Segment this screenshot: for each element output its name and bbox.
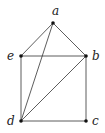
edge-a-d xyxy=(21,23,53,121)
edge-b-d xyxy=(21,56,86,121)
vertex-b xyxy=(84,54,88,58)
vertex-label-b: b xyxy=(92,49,100,63)
vertex-label-d: d xyxy=(7,114,15,128)
vertex-label-a: a xyxy=(52,4,59,18)
graph-diagram: abcde xyxy=(0,0,105,133)
vertex-c xyxy=(84,119,88,123)
vertex-label-e: e xyxy=(7,49,14,63)
edge-a-b xyxy=(53,23,86,56)
graph-nodes xyxy=(19,21,88,123)
graph-edges xyxy=(21,23,86,121)
vertex-e xyxy=(19,54,23,58)
edge-a-e xyxy=(21,23,53,56)
vertex-label-c: c xyxy=(92,114,99,128)
vertex-a xyxy=(51,21,55,25)
vertex-d xyxy=(19,119,23,123)
